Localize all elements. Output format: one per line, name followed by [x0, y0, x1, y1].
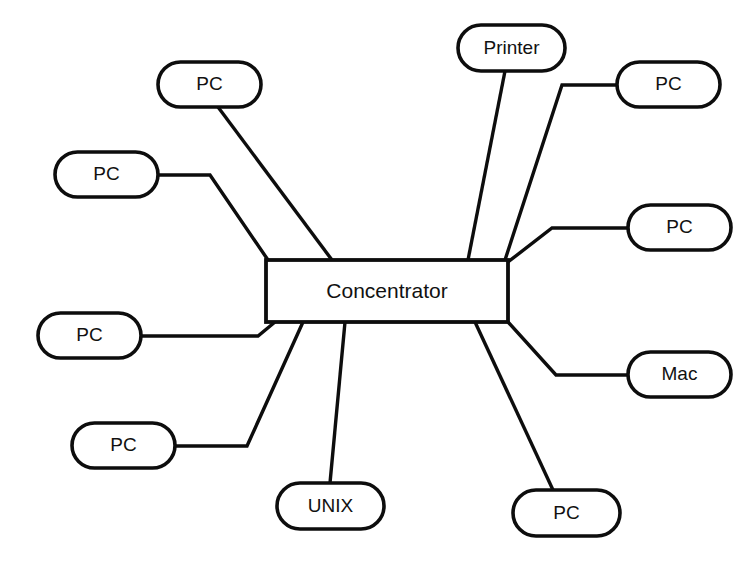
connector-mac [508, 322, 628, 375]
node-pc-top-left-label: PC [196, 73, 222, 94]
node-mac-label: Mac [662, 363, 698, 384]
connector-pc-top-left [218, 107, 332, 260]
node-pc-left-lower[interactable]: PC [38, 313, 141, 358]
node-pc-left-upper[interactable]: PC [55, 152, 158, 197]
network-diagram: Concentrator Printer PC PC PC PC PC [0, 0, 755, 570]
connector-pc-left-upper [158, 175, 268, 260]
connector-pc-right-upper [508, 228, 628, 262]
node-pc-bottom-right-label: PC [553, 502, 579, 523]
node-pc-left-upper-label: PC [93, 163, 119, 184]
node-pc-right-upper[interactable]: PC [628, 205, 731, 250]
hub-node[interactable]: Concentrator [266, 260, 508, 322]
node-pc-bottom-left-label: PC [110, 434, 136, 455]
node-unix[interactable]: UNIX [277, 483, 384, 529]
node-printer-label: Printer [484, 37, 541, 58]
node-unix-label: UNIX [308, 495, 354, 516]
node-pc-top-right-label: PC [655, 73, 681, 94]
connector-pc-left-lower [141, 322, 275, 336]
connector-pc-bottom-left [175, 322, 303, 446]
node-pc-top-left[interactable]: PC [158, 62, 261, 107]
node-pc-right-upper-label: PC [666, 216, 692, 237]
node-printer[interactable]: Printer [458, 25, 565, 71]
connector-pc-top-right [505, 85, 617, 260]
hub-label: Concentrator [326, 279, 447, 302]
node-pc-bottom-right[interactable]: PC [513, 490, 620, 536]
connector-pc-bottom-right [475, 322, 553, 490]
node-mac[interactable]: Mac [628, 352, 731, 397]
connector-unix [330, 322, 345, 483]
connector-printer [468, 71, 505, 260]
node-pc-left-lower-label: PC [76, 324, 102, 345]
node-pc-top-right[interactable]: PC [617, 62, 720, 107]
node-pc-bottom-left[interactable]: PC [72, 423, 175, 468]
diagram-canvas: Concentrator Printer PC PC PC PC PC [0, 0, 755, 570]
